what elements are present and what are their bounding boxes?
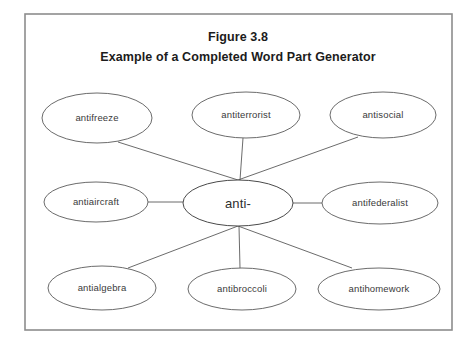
node-antifreeze: antifreeze [42, 93, 152, 143]
word-part-generator-figure: Figure 3.8 Example of a Completed Word P… [0, 0, 476, 346]
node-label-antibroccoli: antibroccoli [217, 283, 267, 294]
node-label-antisocial: antisocial [362, 109, 403, 120]
node-antibroccoli: antibroccoli [188, 268, 296, 310]
node-label-antihomework: antihomework [349, 283, 410, 294]
word-nodes: antifreezeantiterroristantisocialantiair… [42, 92, 440, 310]
node-label-antiaircraft: antiaircraft [73, 196, 119, 207]
node-label-anti-root: anti- [225, 196, 251, 211]
node-label-antialgebra: antialgebra [78, 282, 127, 293]
figure-canvas: Figure 3.8 Example of a Completed Word P… [0, 0, 476, 346]
node-antiterrorist: antiterrorist [192, 92, 300, 138]
figure-title-line1: Figure 3.8 [208, 30, 268, 44]
node-anti-root: anti- [183, 180, 293, 226]
node-label-antifreeze: antifreeze [75, 112, 118, 123]
node-antiaircraft: antiaircraft [44, 182, 148, 222]
node-label-antifederalist: antifederalist [352, 197, 408, 208]
node-antialgebra: antialgebra [48, 266, 156, 310]
node-antihomework: antihomework [318, 268, 440, 310]
node-label-antiterrorist: antiterrorist [221, 109, 271, 120]
node-antifederalist: antifederalist [322, 182, 438, 224]
node-antisocial: antisocial [330, 92, 436, 138]
figure-title-line2: Example of a Completed Word Part Generat… [100, 50, 376, 64]
